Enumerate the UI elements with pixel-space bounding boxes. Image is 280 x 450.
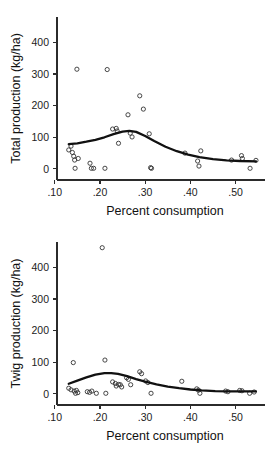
data-point (116, 141, 120, 145)
y-tick-label: 400 (31, 36, 49, 48)
data-point (94, 391, 98, 395)
data-point (88, 161, 92, 165)
data-point (196, 159, 200, 163)
y-axis-title: Total production (kg/ha) (9, 33, 23, 164)
y-tick-label: 300 (31, 68, 49, 80)
data-point (76, 156, 80, 160)
x-tick-label: .30 (138, 411, 153, 423)
x-tick-label: .50 (228, 411, 243, 423)
y-tick-label: 300 (31, 293, 49, 305)
x-axis-title: Percent consumption (106, 204, 223, 218)
data-point (199, 149, 203, 153)
y-tick-label: 200 (31, 324, 49, 336)
x-axis-title: Percent consumption (106, 429, 223, 443)
plot-points-bottom (67, 246, 257, 396)
x-tick-label: .10 (47, 411, 62, 423)
plot-points-top (67, 67, 258, 170)
chart-panel-total-production: 0100200300400.10.20.30.40.50Percent cons… (0, 0, 280, 225)
data-point (180, 379, 184, 383)
data-point (147, 132, 151, 136)
x-tick-label: .50 (228, 186, 243, 198)
data-point (239, 154, 243, 158)
data-point (104, 391, 108, 395)
data-point (100, 246, 104, 250)
y-axis-title: Twig production (kg/ha) (9, 259, 23, 389)
y-tick-label: 100 (31, 356, 49, 368)
y-tick-label: 400 (31, 261, 49, 273)
loess-fit-curve (69, 373, 256, 391)
data-point (71, 360, 75, 364)
loess-fit-curve (69, 131, 256, 161)
data-point (248, 166, 252, 170)
data-point (126, 113, 130, 117)
figure-container: 0100200300400.10.20.30.40.50Percent cons… (0, 0, 280, 450)
plot-labels-bottom: 0100200300400.10.20.30.40.50Percent cons… (9, 259, 243, 443)
data-point (197, 164, 201, 168)
data-point (75, 67, 79, 71)
scatter-plot-total-production: 0100200300400.10.20.30.40.50Percent cons… (0, 0, 280, 225)
data-point (103, 166, 107, 170)
x-tick-label: .10 (47, 186, 62, 198)
data-point (103, 358, 107, 362)
plot-fit-curve-bottom (69, 373, 256, 391)
x-tick-label: .40 (183, 411, 198, 423)
y-tick-label: 0 (43, 388, 49, 400)
data-point (129, 383, 133, 387)
data-point (130, 135, 134, 139)
data-point (105, 67, 109, 71)
x-tick-label: .40 (183, 186, 198, 198)
chart-panel-twig-production: 0100200300400.10.20.30.40.50Percent cons… (0, 225, 280, 450)
plot-fit-curve-top (69, 131, 256, 161)
x-tick-label: .20 (93, 186, 108, 198)
x-tick-label: .30 (138, 186, 153, 198)
scatter-plot-twig-production: 0100200300400.10.20.30.40.50Percent cons… (0, 225, 280, 450)
x-tick-label: .20 (93, 411, 108, 423)
y-tick-label: 100 (31, 131, 49, 143)
y-tick-label: 200 (31, 99, 49, 111)
data-point (138, 94, 142, 98)
data-point (149, 391, 153, 395)
data-point (141, 107, 145, 111)
data-point (73, 166, 77, 170)
plot-labels-top: 0100200300400.10.20.30.40.50Percent cons… (9, 33, 243, 218)
y-tick-label: 0 (43, 163, 49, 175)
